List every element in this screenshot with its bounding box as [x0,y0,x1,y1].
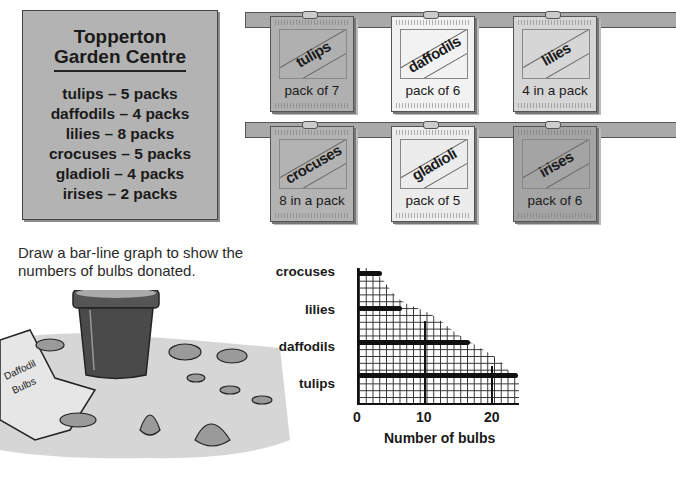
seed-packet-crocuses: crocuses 8 in a pack [270,126,354,222]
sign-title-line1: Topperton [54,27,186,47]
packet-label: lilies [522,29,590,79]
packet-label: tulips [279,29,347,79]
packet-edge [275,213,349,218]
clip-icon [302,121,318,129]
packet-name: lilies [539,39,574,69]
bar-daffodils [358,340,470,345]
clip-icon [302,11,318,19]
packet-edge [275,20,349,25]
sign-item: gladioli – 4 packs [23,164,217,184]
packet-label: crocuses [279,139,347,189]
clip-icon [545,11,561,19]
seed-packet-daffodils: daffodils pack of 6 [391,16,475,112]
packet-edge [275,103,349,108]
seed-packet-lilies: lilies 4 in a pack [513,16,597,112]
packet-name: daffodils [405,32,464,76]
chart-grid [357,268,519,405]
seed-packet-gladioli: gladioli pack of 5 [391,126,475,222]
packet-quantity: pack of 6 [514,193,596,208]
packet-edge [518,103,592,108]
sign-item: crocuses – 5 packs [23,144,217,164]
gridline-10 [424,321,426,405]
sign-title-line2: Garden Centre [54,47,186,67]
packet-edge [396,213,470,218]
packet-name: tulips [293,37,334,70]
category-label-daffodils: daffodils [215,339,335,354]
bar-crocuses [358,271,382,276]
packet-quantity: pack of 6 [392,83,474,98]
sign-list: tulips – 5 packs daffodils – 4 packs lil… [23,84,217,204]
category-label-crocuses: crocuses [215,264,335,279]
x-axis-label: Number of bulbs [384,430,495,446]
packet-name: crocuses [282,141,344,187]
packet-edge [396,20,470,25]
packet-edge [275,130,349,135]
sign-item: daffodils – 4 packs [23,104,217,124]
gridline-20 [491,366,493,405]
packet-quantity: pack of 7 [271,83,353,98]
packet-edge [396,130,470,135]
sign-item: irises – 2 packs [23,184,217,204]
seed-packet-irises: irises pack of 6 [513,126,597,222]
x-tick-20: 20 [484,409,500,425]
flower-pot-icon [73,290,159,379]
bar-lilies [358,306,402,311]
packet-quantity: pack of 5 [392,193,474,208]
packet-label: gladioli [400,139,468,189]
packet-name: gladioli [409,145,460,184]
packet-edge [518,213,592,218]
packet-edge [518,20,592,25]
clip-icon [423,121,439,129]
category-label-tulips: tulips [215,376,335,391]
sign-item: lilies – 8 packs [23,124,217,144]
packet-edge [396,103,470,108]
packet-edge [518,130,592,135]
packet-name: irises [536,148,576,181]
category-label-lilies: lilies [215,302,335,317]
clip-icon [545,121,561,129]
sign-item: tulips – 5 packs [23,84,217,104]
garden-centre-sign: Topperton Garden Centre tulips – 5 packs… [22,10,218,220]
packet-label: irises [522,139,590,189]
sign-title: Topperton Garden Centre [54,27,186,72]
x-tick-10: 10 [416,409,432,425]
packet-quantity: 4 in a pack [514,83,596,98]
bar-tulips [358,373,518,378]
x-tick-0: 0 [353,409,361,425]
clip-icon [423,11,439,19]
packet-label: daffodils [400,29,468,79]
seed-packet-tulips: tulips pack of 7 [270,16,354,112]
packet-quantity: 8 in a pack [271,193,353,208]
